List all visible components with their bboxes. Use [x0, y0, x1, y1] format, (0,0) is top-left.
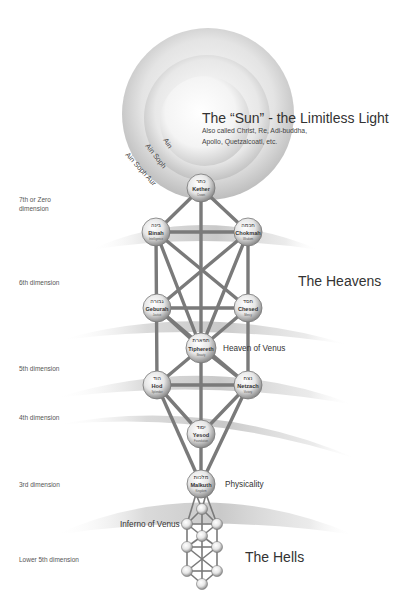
hod-name: Hod: [152, 383, 163, 389]
inverted-node: [182, 566, 193, 577]
inverted-node: [212, 542, 223, 553]
sephira-netzach: נצח Netzach Victory: [234, 371, 262, 399]
dimension-label-3rd: 3rd dimension: [19, 481, 60, 488]
binah-name: Binah: [148, 230, 164, 236]
hells-label: The Hells: [245, 549, 304, 565]
tiphereth-hebrew: תפארת: [192, 337, 210, 343]
geburah-meaning: Justice: [153, 313, 162, 317]
sephira-geburah: גבורה Geburah Justice: [143, 294, 171, 322]
tree-of-life-diagram: Ain Ain Soph Ain Soph Aur The “Sun” - th…: [0, 0, 407, 604]
inverted-node: [212, 566, 223, 577]
sephira-chokmah: חכמה Chokmah Wisdom: [234, 218, 262, 246]
inverted-node: [197, 504, 208, 515]
chesed-meaning: Mercy: [244, 313, 252, 317]
yesod-name: Yesod: [193, 432, 210, 438]
sephira-tiphereth: תפארת Tiphereth Beauty: [186, 333, 216, 363]
dimension-label-7th-line2: dimension: [19, 205, 49, 212]
chokmah-name: Chokmah: [235, 230, 261, 236]
kether-meaning: Crown: [197, 193, 206, 197]
heavens-label: The Heavens: [298, 273, 381, 289]
chesed-name: Chesed: [238, 306, 259, 312]
sephira-hod: הוד Hod Splendor: [143, 371, 171, 399]
inverted-node: [182, 519, 193, 530]
binah-hebrew: בינה: [151, 222, 161, 228]
inverted-node: [197, 531, 208, 542]
geburah-name: Geburah: [145, 306, 169, 312]
chesed-hebrew: חסד: [243, 298, 253, 304]
tiphereth-name: Tiphereth: [188, 346, 214, 352]
malkuth-name: Malkuth: [190, 482, 212, 488]
sephira-chesed: חסד Chesed Mercy: [234, 294, 262, 322]
binah-meaning: Intelligence: [149, 237, 164, 241]
band-7th: [90, 225, 320, 250]
inverted-node: [197, 579, 208, 590]
heaven-of-venus-label: Heaven of Venus: [223, 344, 285, 353]
diagram-canvas: Ain Ain Soph Ain Soph Aur The “Sun” - th…: [0, 0, 407, 604]
netzach-meaning: Victory: [244, 390, 253, 394]
dimension-label-7th-line1: 7th or Zero: [19, 196, 51, 203]
yesod-hebrew: יסוד: [196, 424, 205, 430]
inverted-node: [212, 519, 223, 530]
sephira-binah: בינה Binah Intelligence: [142, 218, 170, 246]
sephira-kether: כתר Kether Crown: [187, 174, 215, 202]
yesod-meaning: Foundation: [194, 439, 208, 443]
sun-subtitle-line2: Apollo, Quetzalcoatl, etc.: [202, 138, 277, 146]
hod-hebrew: הוד: [153, 375, 161, 381]
inferno-of-venus-label: Inferno of Venus: [120, 520, 180, 529]
dimension-label-lower-5th: Lower 5th dimension: [19, 556, 79, 563]
sun-title: The “Sun” - the Limitless Light: [202, 110, 389, 126]
malkuth-hebrew: מלכות: [194, 474, 209, 480]
malkuth-meaning: Kingdom: [195, 489, 207, 493]
hod-meaning: Splendor: [151, 390, 162, 394]
physicality-label: Physicality: [225, 480, 265, 489]
band-5th: [55, 376, 355, 405]
inverted-node: [182, 542, 193, 553]
chokmah-meaning: Wisdom: [243, 237, 254, 241]
geburah-hebrew: גבורה: [150, 298, 164, 304]
dimension-label-4th: 4th dimension: [19, 414, 60, 421]
chokmah-hebrew: חכמה: [241, 222, 255, 228]
dimension-label-6th: 6th dimension: [19, 279, 60, 286]
kether-hebrew: כתר: [196, 178, 206, 184]
tiphereth-meaning: Beauty: [197, 353, 206, 357]
dimension-label-5th: 5th dimension: [19, 365, 60, 372]
sephira-malkuth: מלכות Malkuth Kingdom: [187, 470, 215, 498]
kether-name: Kether: [192, 186, 211, 192]
netzach-name: Netzach: [237, 383, 259, 389]
sephira-yesod: יסוד Yesod Foundation: [187, 420, 215, 448]
sun-subtitle-line1: Also called Christ, Re, Adi-buddha,: [202, 127, 307, 134]
netzach-hebrew: נצח: [244, 375, 253, 381]
